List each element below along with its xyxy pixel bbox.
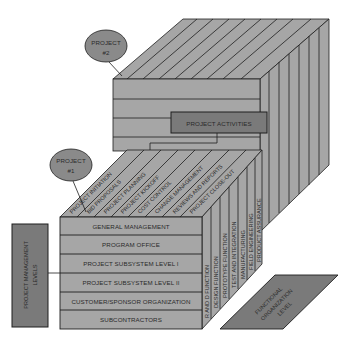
pm-levels-label-line2: LEVELS [32, 264, 38, 285]
level-label: PROJECT SUBSYSTEM LEVEL I [83, 260, 179, 267]
project-2-label-line1: PROJECT [91, 39, 121, 46]
level-label: SUBCONTRACTORS [100, 316, 162, 323]
level-label: GENERAL MANAGEMENT [92, 223, 169, 230]
project-1-label-line1: PROJECT [56, 157, 86, 164]
project-1-label-line2: #1 [67, 167, 75, 174]
function-label: R AND D FUNCTION [204, 265, 210, 318]
project-matrix-diagram: PROJECT ACTIVITIES PROJECT #2 PROJECT IN… [0, 0, 346, 344]
project-1-cube: PROJECT INITIATION BID PROPOSALS PROJECT… [60, 150, 262, 329]
pm-levels-label-line1: PROJECT MANAGEMENT [23, 241, 29, 309]
level-label: PROGRAM OFFICE [102, 241, 160, 248]
function-label: MANUFACTURING [240, 230, 246, 279]
level-label: CUSTOMER/SPONSOR ORGANIZATION [71, 298, 190, 305]
project-2-bubble: PROJECT #2 [85, 30, 127, 76]
project-activities-label: PROJECT ACTIVITIES [186, 120, 252, 127]
function-label: PRODUCT ASSURANCE [256, 198, 262, 262]
project-2-label-line2: #2 [102, 49, 110, 56]
level-label: PROJECT SUBSYSTEM LEVEL II [82, 279, 179, 286]
function-label: PROTOTYPE FUNCTION [222, 233, 228, 298]
function-label: TEST AND INTEGRATION [231, 221, 237, 288]
function-label: DESIGN FUNCTION [213, 256, 219, 308]
project-management-levels-box: PROJECT MANAGEMENT LEVELS [12, 224, 60, 327]
function-label: FIELD ENGINEERING [248, 213, 254, 270]
